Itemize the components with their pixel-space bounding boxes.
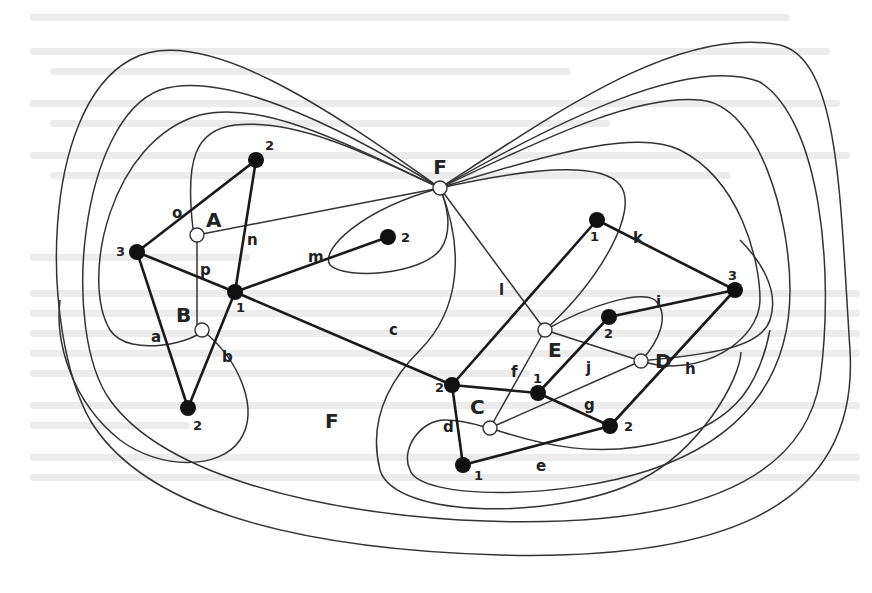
label-F: F: [433, 155, 447, 179]
dual-edge-A-B: [197, 235, 202, 330]
edge-l: [452, 220, 597, 385]
primal-vertex-v1f: [530, 385, 546, 401]
edge-g: [538, 393, 610, 426]
degree-v3a: 3: [116, 244, 125, 259]
edge-i: [609, 290, 735, 317]
primal-vertex-v2j: [601, 309, 617, 325]
dual-edge-A-F: [197, 188, 440, 235]
primal-vertices: [129, 152, 743, 473]
edge-a: [137, 252, 188, 408]
primal-vertex-v3h: [727, 282, 743, 298]
edge-k: [597, 220, 735, 290]
dual-edge-A-loop: [190, 124, 440, 229]
dual-vertex-B: [195, 323, 209, 337]
edge-label-c: c: [389, 321, 398, 339]
edge-label-i: i: [656, 293, 661, 311]
dual-vertex-A: [190, 228, 204, 242]
primal-vertex-v2a: [248, 152, 264, 168]
primal-vertex-v1k: [589, 212, 605, 228]
edge-label-b: b: [222, 348, 233, 366]
edge-label-d: d: [443, 418, 454, 436]
dual-loop-outer-1: [56, 42, 850, 555]
edge-label-h: h: [685, 360, 696, 378]
primal-vertex-v2b: [180, 400, 196, 416]
edge-label-g: g: [584, 396, 595, 414]
edge-label-l: l: [499, 281, 504, 299]
dual-loop-outer-2: [83, 76, 826, 522]
degree-v2j: 2: [604, 326, 613, 341]
label-A: A: [206, 208, 222, 232]
dual-vertex-F: [433, 181, 447, 195]
dual-loop-B: [59, 300, 248, 463]
dual-graph-diagram: F A B C D E 3 2 1 2 2 1 3 2 2 1 2 1 o n …: [0, 0, 872, 593]
degree-v2m: 2: [401, 230, 410, 245]
edge-p: [137, 252, 235, 292]
edge-label-j: j: [585, 359, 591, 377]
primal-vertex-v2g: [602, 418, 618, 434]
dual-vertices: [190, 181, 648, 435]
degree-v2g: 2: [624, 419, 633, 434]
edge-label-f: f: [511, 363, 518, 381]
outer-face-label-F: F: [325, 409, 339, 433]
degree-v1f: 1: [533, 371, 542, 386]
edge-label-a: a: [151, 328, 161, 346]
primal-vertex-v1d: [455, 457, 471, 473]
edge-labels: o n p m a b c l k i j h f g d e F: [151, 204, 696, 475]
edge-n: [235, 160, 256, 292]
label-D: D: [655, 349, 672, 373]
degree-v3h: 3: [728, 268, 737, 283]
primal-vertex-v1a: [227, 284, 243, 300]
edge-label-o: o: [172, 204, 182, 222]
degree-v2c: 2: [435, 380, 444, 395]
degree-v2a: 2: [265, 138, 274, 153]
dual-vertex-C: [483, 421, 497, 435]
edge-label-n: n: [247, 231, 258, 249]
degree-v1d: 1: [474, 468, 483, 483]
label-B: B: [176, 303, 191, 327]
primal-vertex-v3a: [129, 244, 145, 260]
primal-edges: [137, 160, 735, 465]
edge-f: [452, 385, 538, 393]
edge-label-p: p: [200, 261, 211, 279]
edge-h: [610, 290, 735, 426]
primal-vertex-v2m: [380, 229, 396, 245]
primal-vertex-v2c: [444, 377, 460, 393]
degree-v2b: 2: [193, 418, 202, 433]
edge-label-m: m: [308, 248, 324, 266]
edge-label-k: k: [633, 229, 644, 247]
edge-label-e: e: [536, 457, 546, 475]
edge-c: [235, 292, 452, 385]
dual-edges: [56, 42, 850, 555]
dual-vertex-E: [538, 323, 552, 337]
degree-v1a: 1: [236, 300, 245, 315]
dual-vertex-D: [634, 354, 648, 368]
degree-v1k: 1: [590, 229, 599, 244]
label-C: C: [470, 395, 485, 419]
label-E: E: [548, 338, 562, 362]
